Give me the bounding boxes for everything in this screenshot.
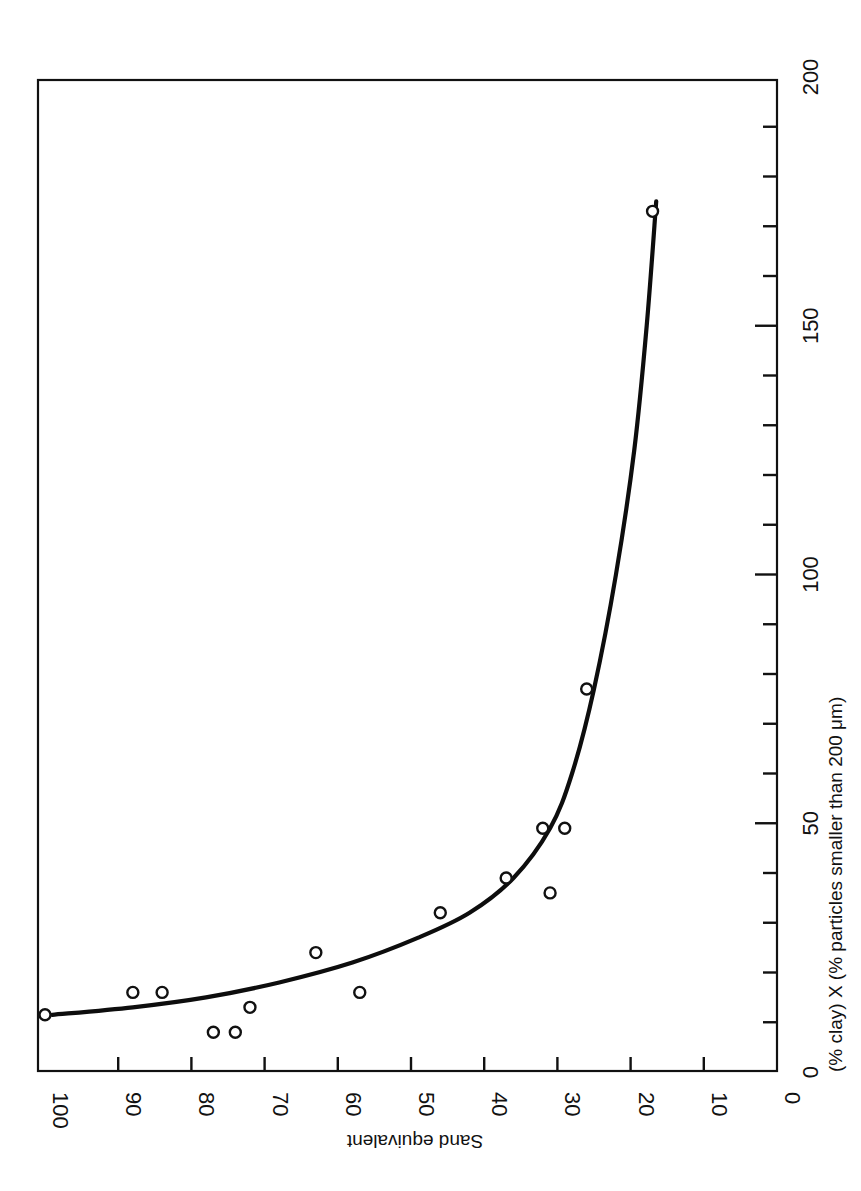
tick-label: 100 <box>798 556 823 593</box>
data-point <box>244 1002 255 1013</box>
data-point <box>230 1027 241 1038</box>
data-point <box>559 823 570 834</box>
product-axis-tick-labels: 050100150200 <box>798 59 823 1078</box>
sand-equivalent-axis-ticks <box>118 1057 704 1071</box>
tick-label: 50 <box>798 811 823 835</box>
sand-equivalent-axis-tick-labels: 1009080706050403020100 <box>48 1092 805 1129</box>
tick-label: 70 <box>268 1092 293 1116</box>
tick-label: 30 <box>560 1092 585 1116</box>
fitted-curve <box>52 201 656 1014</box>
product-axis-ticks <box>755 127 777 1023</box>
tick-label: 90 <box>121 1092 146 1116</box>
data-point <box>435 907 446 918</box>
data-point <box>40 1009 51 1020</box>
data-point <box>537 823 548 834</box>
tick-label: 0 <box>780 1092 805 1104</box>
tick-label: 10 <box>707 1092 732 1116</box>
rotated-scatter-chart: 050100150200 1009080706050403020100 (% c… <box>0 0 861 1191</box>
data-points <box>40 206 659 1038</box>
tick-label: 20 <box>634 1092 659 1116</box>
data-point <box>208 1027 219 1038</box>
tick-label: 0 <box>798 1066 823 1078</box>
data-point <box>581 683 592 694</box>
data-point <box>157 987 168 998</box>
data-point <box>501 872 512 883</box>
tick-label: 80 <box>194 1092 219 1116</box>
data-point <box>647 206 658 217</box>
y-axis-title: Sand equivalent <box>346 1131 483 1152</box>
tick-label: 100 <box>48 1092 73 1129</box>
plot-frame <box>38 80 777 1071</box>
tick-label: 60 <box>341 1092 366 1116</box>
data-point <box>127 987 138 998</box>
tick-label: 200 <box>798 59 823 96</box>
data-point <box>545 887 556 898</box>
x-axis-title: (% clay) X (% particles smaller than 200… <box>825 697 846 1072</box>
data-point <box>354 987 365 998</box>
tick-label: 50 <box>414 1092 439 1116</box>
tick-label: 40 <box>487 1092 512 1116</box>
data-point <box>310 947 321 958</box>
tick-label: 150 <box>798 307 823 344</box>
